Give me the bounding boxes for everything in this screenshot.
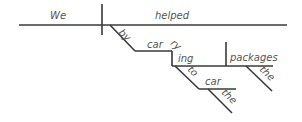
subject-word: We xyxy=(50,10,66,21)
sentence-diagram: We helped by car ry ing packages the to … xyxy=(0,0,302,122)
verb-word: helped xyxy=(155,10,190,21)
prep-object-word: car xyxy=(205,76,222,87)
gerund-part-ing: ing xyxy=(178,53,193,64)
gerund-part-car: car xyxy=(147,39,164,50)
direct-object-word: packages xyxy=(229,52,278,63)
preposition-by-word: by xyxy=(117,27,134,44)
diagram-canvas: We helped by car ry ing packages the to … xyxy=(0,0,302,122)
